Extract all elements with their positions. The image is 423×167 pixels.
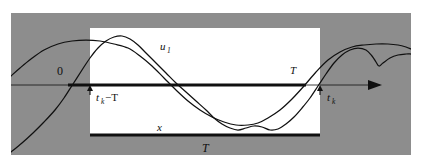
observation-window-rect: [90, 28, 320, 135]
origin-label: 0: [57, 64, 63, 78]
period-right-label: T: [290, 64, 297, 76]
tk-minus-T-label-suffix: −T: [105, 91, 118, 103]
u1-label-subscript: 1: [167, 46, 171, 55]
figure-root: 0 u 1 x t k −T t k T T: [0, 0, 423, 167]
u1-label: u: [160, 40, 166, 52]
signal-diagram-svg: 0 u 1 x t k −T t k T T: [0, 0, 423, 167]
x-label: x: [156, 121, 162, 133]
